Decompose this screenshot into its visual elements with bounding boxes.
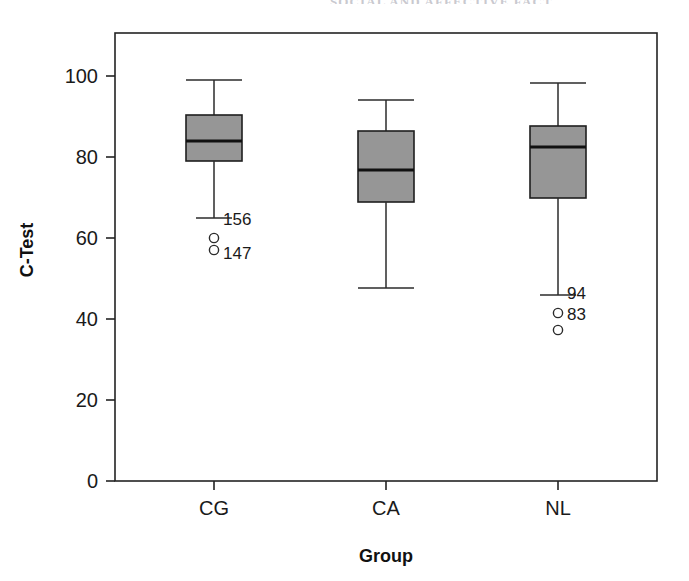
x-tick-label-ca: CA bbox=[372, 497, 400, 519]
x-tick-label-nl: NL bbox=[545, 497, 571, 519]
box-plot-group-cg: 156 147 bbox=[186, 80, 251, 263]
outlier-label-nl-83: 83 bbox=[567, 305, 586, 324]
outlier-point-nl-2 bbox=[553, 325, 562, 334]
y-tick-label-80: 80 bbox=[76, 146, 98, 168]
outlier-point-cg-1 bbox=[209, 233, 218, 242]
outlier-label-nl-94: 94 bbox=[567, 284, 586, 303]
outlier-label-cg-156: 156 bbox=[223, 210, 251, 229]
figure-panel: SOCIAL AND AFFECTIVE FACT 0 20 40 60 80 … bbox=[0, 0, 689, 581]
outlier-point-cg-2 bbox=[209, 245, 218, 254]
x-axis-ticks bbox=[214, 481, 558, 490]
y-tick-label-40: 40 bbox=[76, 308, 98, 330]
box-plot-group-nl: 94 83 bbox=[530, 83, 586, 335]
y-axis-title: C-Test bbox=[17, 223, 37, 278]
box-plot-chart: 0 20 40 60 80 100 C-Test CG CA NL Group bbox=[0, 0, 689, 581]
box-plot-group-ca bbox=[358, 100, 414, 288]
y-axis-ticks bbox=[106, 76, 115, 481]
y-tick-label-0: 0 bbox=[87, 470, 98, 492]
x-axis-title: Group bbox=[359, 546, 413, 566]
outlier-point-nl-1 bbox=[553, 308, 562, 317]
y-tick-label-60: 60 bbox=[76, 227, 98, 249]
x-tick-label-cg: CG bbox=[199, 497, 229, 519]
y-tick-label-20: 20 bbox=[76, 389, 98, 411]
outlier-label-cg-147: 147 bbox=[223, 244, 251, 263]
y-tick-label-100: 100 bbox=[65, 65, 98, 87]
